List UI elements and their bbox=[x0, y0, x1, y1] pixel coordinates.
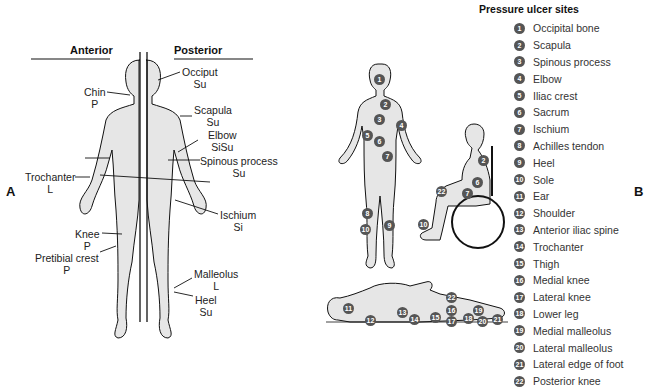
number-badge-icon: 15 bbox=[514, 258, 525, 269]
marker-standing-7: 7 bbox=[382, 151, 393, 162]
legend-item: 20Lateral malleolus bbox=[514, 339, 624, 356]
legend-item-label: Heel bbox=[533, 157, 555, 169]
legend-item: 18Lower leg bbox=[514, 306, 624, 323]
marker-seated-10: 10 bbox=[418, 219, 429, 230]
number-badge-icon: 19 bbox=[514, 325, 525, 336]
legend-item-label: Lateral edge of foot bbox=[533, 358, 624, 370]
marker-seated-22: 22 bbox=[436, 186, 447, 197]
marker-standing-10: 10 bbox=[360, 224, 371, 235]
number-badge-icon: 11 bbox=[514, 191, 525, 202]
legend-item: 7Ischium bbox=[514, 121, 624, 138]
legend-item-label: Shoulder bbox=[533, 207, 575, 219]
marker-lying-13: 13 bbox=[397, 307, 408, 318]
legend-item: 12Shoulder bbox=[514, 205, 624, 222]
marker-seated-6: 6 bbox=[472, 177, 483, 188]
marker-standing-4: 4 bbox=[396, 120, 407, 131]
legend-item: 16Medial knee bbox=[514, 272, 624, 289]
legend-list: 1Occipital bone2Scapula3Spinous process4… bbox=[514, 20, 624, 390]
legend-item: 19Medial malleolus bbox=[514, 322, 624, 339]
marker-lying-17: 17 bbox=[446, 316, 457, 327]
legend-item-label: Trochanter bbox=[533, 241, 583, 253]
legend-item-label: Elbow bbox=[533, 73, 562, 85]
number-badge-icon: 2 bbox=[514, 40, 525, 51]
number-badge-icon: 17 bbox=[514, 292, 525, 303]
legend-item-label: Scapula bbox=[533, 39, 571, 51]
marker-standing-2: 2 bbox=[380, 99, 391, 110]
legend-item-label: Lateral knee bbox=[533, 291, 591, 303]
marker-lying-15: 15 bbox=[430, 312, 441, 323]
legend-item-label: Ear bbox=[533, 190, 549, 202]
marker-lying-12: 12 bbox=[365, 315, 376, 326]
legend-item: 13Anterior iliac spine bbox=[514, 222, 624, 239]
legend-item-label: Medial malleolus bbox=[533, 325, 611, 337]
number-badge-icon: 13 bbox=[514, 224, 525, 235]
legend-item: 21Lateral edge of foot bbox=[514, 356, 624, 373]
legend-item: 11Ear bbox=[514, 188, 624, 205]
number-badge-icon: 1 bbox=[514, 23, 525, 34]
legend-item-label: Sole bbox=[533, 174, 554, 186]
number-badge-icon: 18 bbox=[514, 308, 525, 319]
marker-lying-20: 20 bbox=[477, 316, 488, 327]
legend-item-label: Thigh bbox=[533, 258, 559, 270]
legend-item: 17Lateral knee bbox=[514, 289, 624, 306]
legend-item-label: Iliac crest bbox=[533, 90, 577, 102]
number-badge-icon: 12 bbox=[514, 208, 525, 219]
legend-item: 4Elbow bbox=[514, 70, 624, 87]
legend-item-label: Posterior knee bbox=[533, 375, 601, 387]
legend-item-label: Lateral malleolus bbox=[533, 342, 612, 354]
marker-standing-9: 9 bbox=[384, 220, 395, 231]
number-badge-icon: 16 bbox=[514, 275, 525, 286]
number-badge-icon: 10 bbox=[514, 174, 525, 185]
marker-lying-19: 19 bbox=[473, 305, 484, 316]
number-badge-icon: 6 bbox=[514, 107, 525, 118]
legend-item: 22Posterior knee bbox=[514, 373, 624, 390]
legend-item: 15Thigh bbox=[514, 255, 624, 272]
legend-item: 9Heel bbox=[514, 154, 624, 171]
legend-item: 1Occipital bone bbox=[514, 20, 624, 37]
number-badge-icon: 3 bbox=[514, 56, 525, 67]
legend-item-label: Anterior iliac spine bbox=[533, 224, 619, 236]
legend-item-label: Sacrum bbox=[533, 106, 569, 118]
marker-lying-16: 16 bbox=[446, 305, 457, 316]
legend-item-label: Occipital bone bbox=[533, 22, 600, 34]
legend-item: 5Iliac crest bbox=[514, 87, 624, 104]
legend-item: 3Spinous process bbox=[514, 54, 624, 71]
number-badge-icon: 8 bbox=[514, 140, 525, 151]
panel-b-letter: B bbox=[634, 184, 643, 199]
marker-lying-14: 14 bbox=[409, 314, 420, 325]
marker-standing-8: 8 bbox=[362, 208, 373, 219]
marker-standing-5: 5 bbox=[362, 130, 373, 141]
legend-item-label: Ischium bbox=[533, 123, 569, 135]
number-badge-icon: 21 bbox=[514, 359, 525, 370]
legend-item: 8Achilles tendon bbox=[514, 138, 624, 155]
marker-standing-3: 3 bbox=[374, 114, 385, 125]
number-badge-icon: 22 bbox=[514, 376, 525, 387]
legend-item-label: Achilles tendon bbox=[533, 140, 604, 152]
legend-item: 10Sole bbox=[514, 171, 624, 188]
marker-seated-7: 7 bbox=[462, 188, 473, 199]
marker-standing-6: 6 bbox=[374, 136, 385, 147]
marker-lying-18: 18 bbox=[463, 313, 474, 324]
marker-lying-11: 11 bbox=[343, 303, 354, 314]
marker-standing-1: 1 bbox=[374, 74, 385, 85]
legend-item: 2Scapula bbox=[514, 37, 624, 54]
marker-seated-2: 2 bbox=[478, 155, 489, 166]
marker-lying-22: 22 bbox=[446, 292, 457, 303]
legend-item: 14Trochanter bbox=[514, 238, 624, 255]
number-badge-icon: 5 bbox=[514, 90, 525, 101]
legend-item-label: Spinous process bbox=[533, 56, 611, 68]
number-badge-icon: 4 bbox=[514, 73, 525, 84]
legend-item: 6Sacrum bbox=[514, 104, 624, 121]
legend-title: Pressure ulcer sites bbox=[479, 3, 579, 15]
number-badge-icon: 7 bbox=[514, 124, 525, 135]
number-badge-icon: 20 bbox=[514, 342, 525, 353]
number-badge-icon: 14 bbox=[514, 241, 525, 252]
number-badge-icon: 9 bbox=[514, 157, 525, 168]
legend-item-label: Lower leg bbox=[533, 308, 579, 320]
legend-item-label: Medial knee bbox=[533, 274, 590, 286]
marker-lying-21: 21 bbox=[492, 314, 503, 325]
